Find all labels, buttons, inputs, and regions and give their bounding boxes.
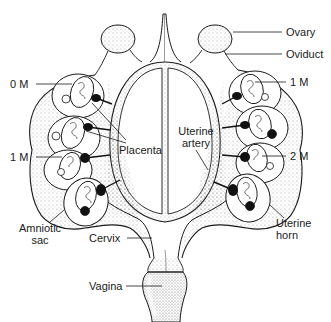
label-amniotic-sac-line2: sac [16,234,64,246]
label-placenta: Placenta [119,144,162,156]
label-right-1m: 1 M [290,76,308,88]
label-ovary: Ovary [286,26,315,38]
label-left-1m: 1 M [10,151,28,163]
label-oviduct: Oviduct [286,48,323,60]
label-uterine-artery: Uterine artery [176,125,216,149]
label-uterine-horn-line1: Uterine [276,217,311,229]
label-uterine-artery-line2: artery [176,137,216,149]
right-ovary [190,25,238,70]
label-right-2m: 2 M [290,150,308,162]
left-ovary [95,25,142,75]
label-cervix: Cervix [89,232,120,244]
label-uterine-horn-line2: horn [276,229,311,241]
uterus-illustration [0,0,331,322]
label-amniotic-sac: Amniotic sac [16,222,64,246]
label-amniotic-sac-line1: Amniotic [16,222,64,234]
label-uterine-artery-line1: Uterine [176,125,216,137]
label-left-0m: 0 M [10,78,28,90]
label-uterine-horn: Uterine horn [276,217,311,241]
label-vagina: Vagina [89,280,122,292]
uterus-diagram: Ovary Oviduct 1 M 2 M 0 M 1 M Placenta U… [0,0,331,322]
top-stalk [150,14,181,62]
